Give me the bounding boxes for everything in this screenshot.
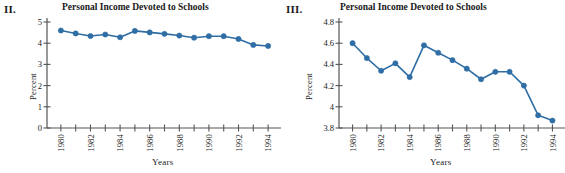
line-chart-ii: 01234519801982198419861988199019921994 xyxy=(0,0,282,173)
svg-text:1980: 1980 xyxy=(348,134,358,152)
figure-container: II. Personal Income Devoted to Schools 0… xyxy=(0,0,565,173)
y-axis-label-iii: Percent xyxy=(304,73,314,100)
x-axis-label-ii: Years xyxy=(152,157,174,167)
svg-text:3.8: 3.8 xyxy=(323,123,334,133)
svg-text:5: 5 xyxy=(38,17,42,27)
svg-text:4.4: 4.4 xyxy=(323,59,334,69)
svg-text:1: 1 xyxy=(38,102,42,112)
svg-text:1992: 1992 xyxy=(234,134,244,152)
svg-text:4: 4 xyxy=(38,38,43,48)
svg-text:1982: 1982 xyxy=(86,134,96,152)
svg-text:1982: 1982 xyxy=(376,134,386,152)
svg-text:1986: 1986 xyxy=(433,134,443,152)
svg-text:1984: 1984 xyxy=(405,133,415,151)
x-axis-label-iii: Years xyxy=(430,157,452,167)
svg-text:0: 0 xyxy=(38,123,42,133)
y-axis-label-ii: Percent xyxy=(28,73,38,100)
svg-text:1994: 1994 xyxy=(263,133,273,151)
line-chart-iii: 3.844.24.44.64.8198019821984198619881990… xyxy=(282,0,565,173)
svg-text:1990: 1990 xyxy=(491,134,501,152)
svg-text:1990: 1990 xyxy=(204,134,214,152)
chart-panel-ii: II. Personal Income Devoted to Schools 0… xyxy=(0,0,282,173)
svg-text:1980: 1980 xyxy=(56,134,66,152)
svg-text:1984: 1984 xyxy=(115,133,125,151)
svg-text:4.8: 4.8 xyxy=(323,17,334,27)
svg-text:4: 4 xyxy=(330,102,335,112)
chart-panel-iii: III. Personal Income Devoted to Schools … xyxy=(282,0,565,173)
svg-text:2: 2 xyxy=(38,81,42,91)
svg-text:4.2: 4.2 xyxy=(323,81,334,91)
svg-text:1994: 1994 xyxy=(548,133,558,151)
svg-text:1988: 1988 xyxy=(175,134,185,152)
svg-text:3: 3 xyxy=(38,59,42,69)
svg-text:1988: 1988 xyxy=(462,134,472,152)
svg-text:1992: 1992 xyxy=(519,134,529,152)
svg-text:4.6: 4.6 xyxy=(323,38,334,48)
svg-text:1986: 1986 xyxy=(145,134,155,152)
